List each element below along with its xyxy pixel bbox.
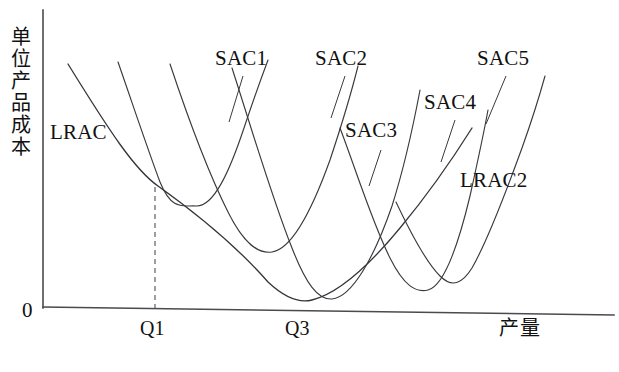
y-axis-title: 单 位 产 品 成 本 xyxy=(6,26,36,158)
label-sac3: SAC3 xyxy=(345,120,397,141)
label-sac2: SAC2 xyxy=(315,48,367,69)
curve-sac3 xyxy=(232,68,420,299)
curve-lrac-envelope xyxy=(68,64,472,301)
label-sac4: SAC4 xyxy=(424,92,476,113)
cost-curve-figure: 单 位 产 品 成 本 LRAC SAC1 SAC2 SAC3 SAC4 SAC… xyxy=(0,0,619,372)
leader-line-sac2 xyxy=(331,76,345,118)
label-sac5: SAC5 xyxy=(477,48,529,69)
y-axis-title-char-1: 单 xyxy=(6,26,36,48)
x-tick-q1: Q1 xyxy=(140,318,164,338)
y-axis-title-char-6: 本 xyxy=(6,136,36,158)
x-axis xyxy=(43,307,614,315)
x-axis-title: 产量 xyxy=(499,318,541,338)
leader-line-sac1 xyxy=(229,76,243,122)
curve-sac2 xyxy=(170,64,358,252)
y-axis-title-char-5: 成 xyxy=(6,114,36,136)
axis-origin-label: 0 xyxy=(22,300,33,321)
leader-line-sac3 xyxy=(369,150,381,186)
label-sac1: SAC1 xyxy=(215,48,267,69)
leader-line-sac5 xyxy=(486,76,506,124)
x-tick-q3: Q3 xyxy=(285,318,309,338)
leader-line-sac4 xyxy=(441,120,455,162)
y-axis-title-char-3: 产 xyxy=(6,70,36,92)
y-axis-title-char-4: 品 xyxy=(6,92,36,114)
label-lrac2: LRAC2 xyxy=(460,170,528,191)
curve-sac1 xyxy=(118,60,268,206)
label-lrac: LRAC xyxy=(50,122,107,143)
y-axis-title-char-2: 位 xyxy=(6,48,36,70)
